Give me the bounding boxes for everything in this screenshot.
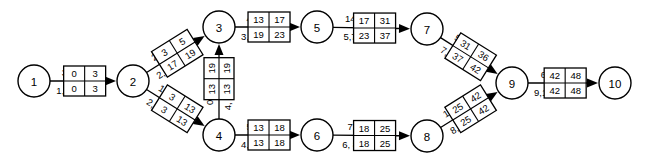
schedule-cell-bottom-left-4-6: 13 (253, 137, 264, 148)
schedule-box-9-10: 42484248 (544, 68, 586, 98)
node-label-9: 9 (509, 78, 515, 90)
node-label-2: 2 (130, 76, 136, 88)
schedule-cell-top-left-3-5: 13 (253, 14, 264, 25)
schedule-box-4-6: 13181318 (248, 120, 290, 150)
node-label-5: 5 (314, 22, 320, 34)
node-2[interactable]: 2 (117, 65, 149, 97)
schedule-cell-bottom-left-3-5: 19 (253, 29, 264, 40)
schedule-cell-bottom-right-3-5: 23 (274, 29, 285, 40)
schedule-cell-bottom-left-9-10: 42 (549, 85, 560, 96)
node-9[interactable]: 9 (496, 67, 528, 99)
node-8[interactable]: 8 (411, 120, 443, 152)
schedule-box-6-8: 18251825 (354, 121, 396, 151)
schedule-cell-bottom-right-5-7: 37 (380, 30, 391, 41)
node-6[interactable]: 6 (301, 119, 333, 151)
schedule-cell-top-left-4-3: 13 (206, 84, 217, 95)
node-label-6: 6 (314, 130, 320, 142)
node-1[interactable]: 1 (18, 65, 50, 97)
schedule-cell-bottom-left-6-8: 18 (359, 138, 370, 149)
schedule-cell-top-right-4-6: 18 (274, 122, 285, 133)
node-3[interactable]: 3 (203, 11, 235, 43)
schedule-cell-bottom-right-4-3: 19 (221, 63, 232, 74)
arrow-head-4-3 (215, 44, 224, 55)
node-label-4: 4 (216, 130, 223, 142)
arrow-head-9-10 (587, 79, 598, 88)
node-10[interactable]: 10 (599, 67, 631, 99)
schedule-cell-top-left-9-10: 42 (549, 70, 560, 81)
schedule-cell-top-right-1-2: 3 (93, 68, 98, 79)
node-7[interactable]: 7 (411, 13, 443, 45)
schedule-box-5-7: 17312337 (354, 13, 396, 43)
schedule-cell-top-right-5-7: 31 (380, 15, 391, 26)
schedule-cell-bottom-right-4-6: 18 (274, 137, 285, 148)
schedule-cell-bottom-left-1-2: 0 (72, 83, 77, 94)
edge-duration-label-6-8: 7 (348, 121, 353, 132)
schedule-cell-top-right-3-5: 17 (274, 14, 285, 25)
arrow-head-6-8 (399, 131, 410, 140)
schedule-box-4-3: 13191319 (204, 58, 234, 100)
schedule-cell-top-left-6-8: 18 (359, 123, 370, 134)
schedule-box-1-2: 0303 (64, 66, 106, 96)
schedule-cell-top-right-6-8: 25 (380, 123, 391, 134)
node-label-8: 8 (424, 131, 430, 143)
arrow-head-5-7 (399, 24, 410, 33)
schedule-cell-top-left-5-7: 17 (359, 15, 370, 26)
schedule-cell-bottom-right-6-8: 25 (380, 138, 391, 149)
node-4[interactable]: 4 (203, 119, 235, 151)
arrow-head-1-2 (105, 77, 116, 86)
schedule-cell-bottom-left-4-3: 13 (221, 84, 232, 95)
schedule-cell-bottom-right-9-10: 48 (570, 85, 581, 96)
node-label-3: 3 (216, 22, 222, 34)
network-diagram-canvas: 1, 232, 322, 4104, 303, 545,7147, 954, 6… (0, 0, 651, 164)
schedule-cell-bottom-right-1-2: 3 (93, 83, 98, 94)
node-5[interactable]: 5 (301, 11, 333, 43)
node-label-7: 7 (424, 24, 430, 36)
schedule-cell-top-left-1-2: 0 (72, 68, 77, 79)
schedule-cell-top-right-4-3: 19 (206, 63, 217, 74)
network-diagram-svg: 1, 232, 322, 4104, 303, 545,7147, 954, 6… (0, 0, 651, 164)
schedule-cell-top-left-4-6: 13 (253, 122, 264, 133)
schedule-cell-top-right-9-10: 48 (570, 70, 581, 81)
edge-duration-label-4-3: 0 (205, 100, 216, 105)
schedule-cell-bottom-left-5-7: 23 (359, 30, 370, 41)
node-label-1: 1 (31, 76, 37, 88)
node-label-10: 10 (609, 78, 622, 90)
schedule-box-3-5: 13171923 (248, 12, 290, 42)
